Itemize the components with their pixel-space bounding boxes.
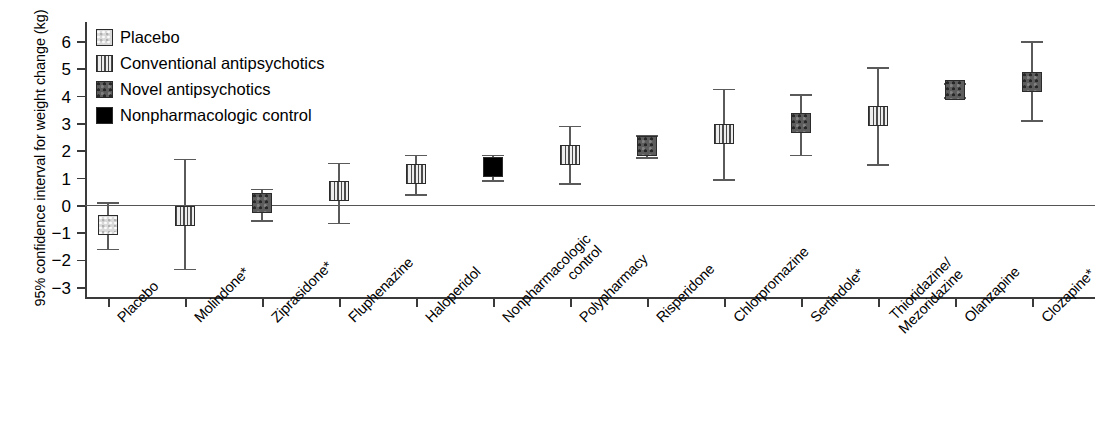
error-bar-cap-upper — [559, 126, 581, 128]
y-tick-label: 0 — [62, 197, 71, 214]
point-marker[interactable] — [945, 80, 965, 100]
x-tick — [955, 298, 957, 307]
x-axis-label-text: Fluphenazine — [345, 254, 416, 325]
legend-swatch-icon — [96, 29, 113, 46]
point-marker[interactable] — [637, 136, 657, 156]
y-tick: −3 — [77, 287, 85, 289]
x-axis-label: Clozapine* — [1038, 266, 1098, 326]
y-tick-label: 5 — [62, 61, 71, 78]
y-tick-label: 4 — [62, 88, 71, 105]
x-axis-label: Ziprasidone* — [268, 258, 335, 325]
y-tick: 0 — [77, 205, 85, 207]
legend: PlaceboConventional antipsychoticsNovel … — [96, 24, 325, 128]
y-tick-label: −2 — [52, 252, 71, 269]
error-bar-cap-lower — [790, 155, 812, 157]
legend-label: Nonpharmacologic control — [120, 107, 312, 124]
x-axis-label: Molindone* — [191, 264, 252, 325]
x-tick — [1032, 298, 1034, 307]
error-bar-cap-lower — [328, 223, 350, 225]
x-tick — [416, 298, 418, 307]
x-axis-label-text: Risperidone — [653, 261, 718, 326]
weight-change-forest-chart: 95% confidence interval for weight chang… — [0, 0, 1103, 436]
zero-reference-line — [85, 205, 1095, 206]
error-bar-cap-lower — [1021, 120, 1043, 122]
legend-swatch-icon — [96, 55, 113, 72]
legend-item-conventional[interactable]: Conventional antipsychotics — [96, 50, 325, 76]
legend-item-nonpharm[interactable]: Nonpharmacologic control — [96, 102, 325, 128]
x-tick — [262, 298, 264, 307]
error-bar-cap-upper — [482, 155, 504, 157]
x-axis-label-text: Olanzapine — [961, 264, 1023, 326]
error-bar-cap-lower — [559, 183, 581, 185]
error-bar-cap-upper — [713, 89, 735, 91]
x-axis-label: Sertindole* — [807, 265, 867, 325]
y-tick-label: 6 — [62, 33, 71, 50]
legend-swatch-icon — [96, 107, 113, 124]
y-tick: 2 — [77, 150, 85, 152]
x-tick — [185, 298, 187, 307]
point-marker[interactable] — [252, 193, 272, 213]
x-tick — [493, 298, 495, 307]
point-marker[interactable] — [98, 215, 118, 235]
point-marker[interactable] — [175, 206, 195, 226]
error-bar-cap-upper — [251, 189, 273, 191]
x-axis-label-text: Haloperidol — [422, 264, 484, 326]
x-axis-label: Olanzapine — [961, 264, 1023, 326]
error-bar-cap-lower — [867, 164, 889, 166]
x-axis-label-text: Molindone* — [191, 264, 252, 325]
point-marker[interactable] — [406, 164, 426, 184]
x-axis-label-text: Thioridazine/ Mezoridazine — [884, 255, 966, 337]
point-marker[interactable] — [483, 157, 503, 177]
x-axis-label-text: Chlorpromazine — [730, 244, 812, 326]
x-tick — [801, 298, 803, 307]
y-tick: 3 — [77, 123, 85, 125]
y-axis-line — [85, 22, 87, 298]
y-tick-label: −1 — [52, 225, 71, 242]
point-marker[interactable] — [714, 124, 734, 144]
error-bar-cap-lower — [174, 269, 196, 271]
y-tick: 1 — [77, 178, 85, 180]
error-bar-cap-upper — [174, 159, 196, 161]
error-bar-cap-lower — [713, 179, 735, 181]
error-bar-cap-lower — [405, 194, 427, 196]
x-axis-label: Fluphenazine — [345, 254, 416, 325]
point-marker[interactable] — [1022, 72, 1042, 92]
legend-item-placebo[interactable]: Placebo — [96, 24, 325, 50]
y-tick: 6 — [77, 41, 85, 43]
legend-label: Placebo — [120, 29, 180, 46]
error-bar-cap-upper — [97, 202, 119, 204]
error-bar-cap-upper — [405, 155, 427, 157]
y-tick-label: 3 — [62, 115, 71, 132]
error-bar-cap-lower — [251, 220, 273, 222]
y-tick: −1 — [77, 232, 85, 234]
x-axis-label-text: Sertindole* — [807, 265, 867, 325]
legend-item-novel[interactable]: Novel antipsychotics — [96, 76, 325, 102]
x-axis-label: Risperidone — [653, 261, 718, 326]
x-tick — [647, 298, 649, 307]
point-marker[interactable] — [329, 181, 349, 201]
x-tick — [724, 298, 726, 307]
point-marker[interactable] — [868, 106, 888, 126]
error-bar-cap-upper — [1021, 41, 1043, 43]
x-axis-label: Haloperidol — [422, 264, 484, 326]
x-axis-label: Placebo — [114, 278, 162, 326]
x-tick — [570, 298, 572, 307]
point-marker[interactable] — [560, 145, 580, 165]
error-bar-cap-upper — [790, 94, 812, 96]
error-bar-cap-lower — [97, 249, 119, 251]
y-tick: 5 — [77, 68, 85, 70]
error-bar-cap-upper — [867, 67, 889, 69]
x-axis-label: Thioridazine/ Mezoridazine — [884, 255, 966, 337]
point-marker[interactable] — [791, 113, 811, 133]
legend-label: Novel antipsychotics — [120, 81, 270, 98]
x-axis-label: Chlorpromazine — [730, 244, 812, 326]
y-tick-label: 1 — [62, 170, 71, 187]
error-bar-cap-upper — [328, 163, 350, 165]
error-bar-cap-lower — [482, 180, 504, 182]
x-tick — [339, 298, 341, 307]
x-tick — [878, 298, 880, 307]
error-bar-cap-lower — [636, 157, 658, 159]
y-tick: −2 — [77, 260, 85, 262]
legend-label: Conventional antipsychotics — [120, 55, 325, 72]
legend-swatch-icon — [96, 81, 113, 98]
